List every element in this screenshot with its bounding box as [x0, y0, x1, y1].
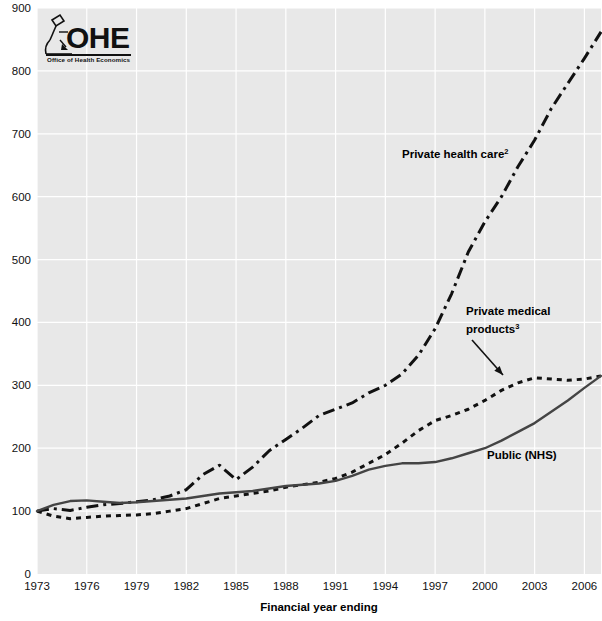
private-health-care-label: Private health care2 — [402, 147, 508, 160]
y-axis-tick-label: 400 — [12, 316, 31, 328]
x-axis-tick-label: 1973 — [24, 580, 50, 592]
x-axis-tick-label: 1988 — [273, 580, 299, 592]
x-axis-tick-label: 1994 — [373, 580, 399, 592]
x-axis-tick-label: 1979 — [124, 580, 150, 592]
y-axis-tick-label: 700 — [12, 128, 31, 140]
y-axis-tick-label: 600 — [12, 191, 31, 203]
y-axis-tick-label: 500 — [12, 254, 31, 266]
x-axis-tick-label: 1976 — [74, 580, 100, 592]
x-axis-tick-label: 1997 — [422, 580, 448, 592]
x-axis-tick-label: 2003 — [522, 580, 548, 592]
x-axis-title: Financial year ending — [260, 601, 378, 613]
plot-area-background — [37, 8, 601, 574]
x-axis-tick-label: 1991 — [323, 580, 349, 592]
logo-subtitle: Office of Health Economics — [47, 56, 131, 63]
public-nhs-label: Public (NHS) — [487, 449, 557, 461]
x-axis-tick-label: 1985 — [223, 580, 249, 592]
y-axis-tick-label: 300 — [12, 379, 31, 391]
private-medical-products-label-line1: Private medical — [466, 305, 550, 317]
y-axis-tick-label: 800 — [12, 65, 31, 77]
ohe-health-expenditure-chart: 0100200300400500600700800900 19731976197… — [0, 0, 602, 621]
y-axis-tick-label: 100 — [12, 505, 31, 517]
x-axis-tick-label: 1982 — [173, 580, 199, 592]
chart-container: 0100200300400500600700800900 19731976197… — [0, 0, 602, 621]
y-axis-tick-label: 200 — [12, 442, 31, 454]
y-axis-tick-label: 900 — [12, 2, 31, 14]
logo-wordmark: OHE — [66, 21, 130, 54]
private-medical-products-label-line2: products3 — [466, 322, 519, 335]
y-axis-tick-label: 0 — [25, 568, 31, 580]
x-axis-tick-label: 2000 — [472, 580, 498, 592]
x-axis-tick-label: 2006 — [572, 580, 598, 592]
